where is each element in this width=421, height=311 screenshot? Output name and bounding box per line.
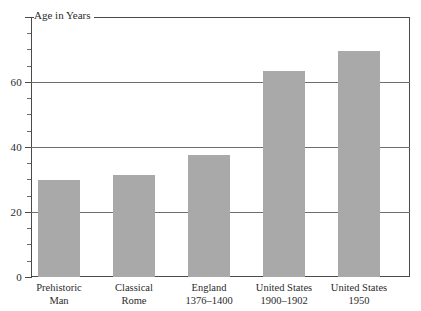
ytick-minor-25 <box>27 196 31 197</box>
bar-classical-rome <box>113 175 155 277</box>
ytick-minor-30 <box>27 179 31 180</box>
category-label-england-1376-1400: England 1376–1400 <box>169 281 249 307</box>
ytick-minor-65 <box>27 66 31 67</box>
ytick-minor-35 <box>27 163 31 164</box>
category-label-united-states-1950: United States 1950 <box>315 281 403 307</box>
ytick-major-20 <box>25 212 31 213</box>
ytick-minor-5 <box>27 261 31 262</box>
category-label-line-1: Prehistoric <box>19 281 99 294</box>
ytick-minor-75 <box>27 33 31 34</box>
ytick-label-40: 40 <box>11 142 22 153</box>
ytick-minor-10 <box>27 244 31 245</box>
ytick-major-0 <box>25 277 31 278</box>
category-label-prehistoric-man: Prehistoric Man <box>19 281 99 307</box>
ytick-minor-45 <box>27 131 31 132</box>
ytick-minor-55 <box>27 98 31 99</box>
ytick-minor-50 <box>27 114 31 115</box>
ytick-major-80 <box>25 17 31 18</box>
bar-prehistoric-man <box>38 180 80 278</box>
category-label-line-2: 1950 <box>315 294 403 307</box>
bar-united-states-1950 <box>338 51 380 277</box>
ytick-major-60 <box>25 82 31 83</box>
category-label-line-2: Man <box>19 294 99 307</box>
ytick-label-60: 60 <box>11 77 22 88</box>
category-label-line-2: 1376–1400 <box>169 294 249 307</box>
ytick-major-40 <box>25 147 31 148</box>
ytick-minor-15 <box>27 228 31 229</box>
category-label-line-1: England <box>169 281 249 294</box>
category-label-line-2: Rome <box>94 294 174 307</box>
y-axis-title: Age in Years <box>34 9 94 21</box>
bar-england-1376-1400 <box>188 155 230 277</box>
category-label-classical-rome: Classical Rome <box>94 281 174 307</box>
bar-chart: 0 20 40 60 Age in Years Prehistoric Man … <box>0 0 421 311</box>
category-label-line-1: Classical <box>94 281 174 294</box>
category-label-line-1: United States <box>315 281 403 294</box>
ytick-label-20: 20 <box>11 207 22 218</box>
ytick-minor-70 <box>27 49 31 50</box>
bar-united-states-1900-1902 <box>263 71 305 277</box>
